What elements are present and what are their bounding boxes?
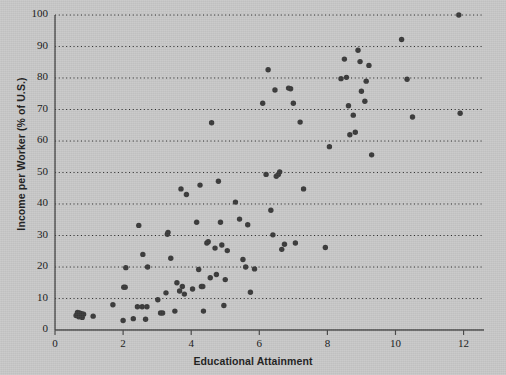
data-point [359, 89, 364, 94]
gridlines-group [55, 15, 483, 299]
data-point [243, 264, 248, 269]
data-point [301, 186, 306, 191]
data-point [346, 103, 351, 108]
data-point [160, 310, 165, 315]
data-point [263, 172, 268, 177]
data-point [265, 67, 270, 72]
data-point [206, 239, 211, 244]
data-point [163, 290, 168, 295]
x-axis-title: Educational Attainment [0, 355, 506, 367]
data-point [214, 272, 219, 277]
data-point [168, 255, 173, 260]
y-axis-title: Income per Worker (% of U.S.) [15, 54, 27, 254]
data-point [362, 99, 367, 104]
data-point [123, 265, 128, 270]
data-point [297, 119, 302, 124]
x-tick-label-8: 8 [307, 337, 347, 349]
data-point [178, 186, 183, 191]
data-point [190, 286, 195, 291]
data-point [139, 304, 144, 309]
data-point [323, 245, 328, 250]
data-point [248, 290, 253, 295]
data-point [155, 297, 160, 302]
y-tick-label-100: 100 [8, 7, 48, 19]
y-tick-label-0: 0 [8, 322, 48, 334]
data-point [221, 303, 226, 308]
data-point [293, 240, 298, 245]
data-point [219, 242, 224, 247]
y-tick-label-50: 50 [8, 165, 48, 177]
data-point [399, 37, 404, 42]
data-point [457, 111, 462, 116]
data-point [344, 75, 349, 80]
data-point [140, 252, 145, 257]
y-tick-label-20: 20 [8, 259, 48, 271]
y-tick-label-90: 90 [8, 39, 48, 51]
data-point [172, 308, 177, 313]
data-point [197, 182, 202, 187]
data-point [252, 266, 257, 271]
x-tick-label-10: 10 [375, 337, 415, 349]
data-point [143, 317, 148, 322]
data-point [270, 232, 275, 237]
data-point [209, 120, 214, 125]
data-point [201, 308, 206, 313]
tick-marks-group [55, 330, 464, 335]
y-tick-label-70: 70 [8, 102, 48, 114]
data-point [288, 86, 293, 91]
data-point [233, 199, 238, 204]
data-point [174, 280, 179, 285]
data-point [218, 220, 223, 225]
data-point [291, 101, 296, 106]
data-point [180, 284, 185, 289]
data-point [351, 112, 356, 117]
data-point [110, 302, 115, 307]
data-point [212, 245, 217, 250]
y-tick-label-40: 40 [8, 196, 48, 208]
data-points-group [73, 12, 462, 323]
data-point [237, 216, 242, 221]
data-point [223, 277, 228, 282]
data-point [122, 284, 127, 289]
data-point [366, 63, 371, 68]
data-point [327, 144, 332, 149]
y-tick-label-80: 80 [8, 70, 48, 82]
data-point [90, 313, 95, 318]
data-point [342, 56, 347, 61]
data-point [355, 48, 360, 53]
data-point [135, 304, 140, 309]
data-point [260, 101, 265, 106]
scatter-plot-figure: 0102030405060708090100 024681012 Income … [0, 0, 506, 375]
x-tick-label-4: 4 [171, 337, 211, 349]
data-point [200, 284, 205, 289]
data-point [165, 230, 170, 235]
axes-group [55, 15, 484, 330]
y-tick-label-10: 10 [8, 291, 48, 303]
x-tick-label-0: 0 [35, 337, 75, 349]
data-point [268, 208, 273, 213]
data-point [364, 78, 369, 83]
data-point [279, 247, 284, 252]
data-point [357, 59, 362, 64]
data-point [145, 264, 150, 269]
x-tick-label-6: 6 [239, 337, 279, 349]
data-point [120, 318, 125, 323]
data-point [136, 223, 141, 228]
data-point [216, 179, 221, 184]
y-tick-label-60: 60 [8, 133, 48, 145]
data-point [208, 275, 213, 280]
data-point [277, 169, 282, 174]
data-point [81, 312, 86, 317]
data-point [282, 242, 287, 247]
data-point [225, 248, 230, 253]
data-point [131, 316, 136, 321]
y-tick-label-30: 30 [8, 228, 48, 240]
data-point [353, 129, 358, 134]
data-point [240, 257, 245, 262]
data-point [196, 267, 201, 272]
x-tick-label-2: 2 [103, 337, 143, 349]
data-point [338, 76, 343, 81]
data-point [184, 192, 189, 197]
data-point [245, 222, 250, 227]
data-point [347, 132, 352, 137]
